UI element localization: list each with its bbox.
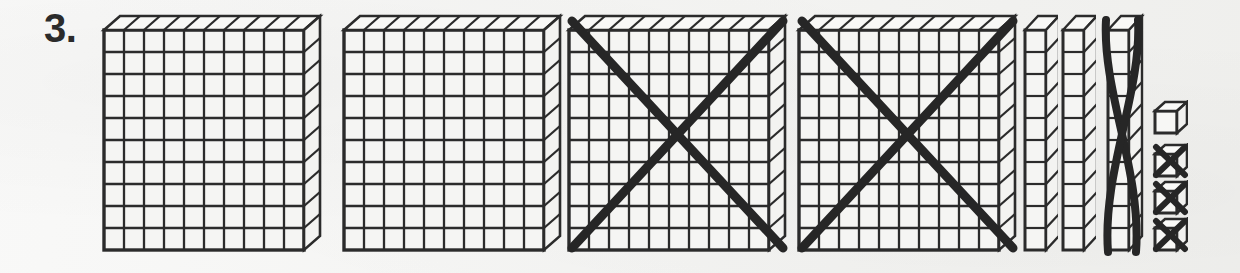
flat-grid-svg bbox=[795, 12, 1023, 260]
flat-grid-svg bbox=[100, 12, 328, 260]
tens-rod-1 bbox=[1022, 12, 1058, 260]
hundreds-flat-2 bbox=[340, 12, 568, 260]
cube-svg bbox=[1152, 180, 1188, 218]
ones-cube-4 bbox=[1152, 217, 1188, 255]
cube-svg bbox=[1152, 217, 1188, 255]
ones-cube-3 bbox=[1152, 180, 1188, 218]
rod-svg bbox=[1100, 12, 1146, 260]
problem-number-label: 3. bbox=[44, 6, 76, 51]
cube-front-face bbox=[1155, 111, 1177, 133]
hundreds-flat-4 bbox=[795, 12, 1023, 260]
cube-svg bbox=[1152, 100, 1188, 138]
tens-rod-3 bbox=[1100, 12, 1146, 260]
worksheet-problem-canvas: 3. bbox=[0, 0, 1240, 273]
flat-grid-svg bbox=[340, 12, 568, 260]
rod-svg bbox=[1060, 12, 1096, 260]
cube-svg bbox=[1152, 143, 1188, 181]
hundreds-flat-3 bbox=[565, 12, 793, 260]
flat-grid-svg bbox=[565, 12, 793, 260]
ones-cube-1 bbox=[1152, 100, 1188, 138]
tens-rod-2 bbox=[1060, 12, 1096, 260]
ones-cube-2 bbox=[1152, 143, 1188, 181]
hundreds-flat-1 bbox=[100, 12, 328, 260]
rod-svg bbox=[1022, 12, 1058, 260]
